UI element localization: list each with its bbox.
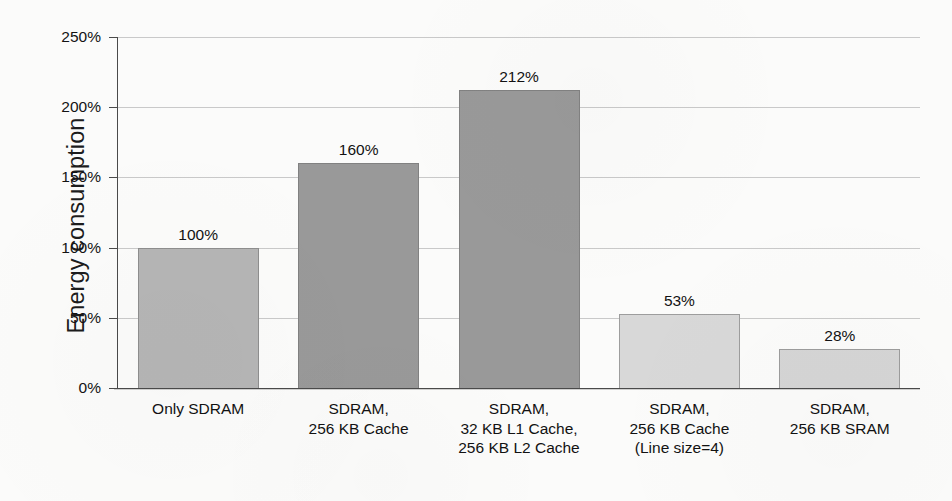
y-axis-tick-label: 200% <box>41 98 101 116</box>
bar-value-label: 100% <box>138 226 259 244</box>
bar-value-label: 212% <box>459 68 580 86</box>
y-axis-line <box>117 37 118 389</box>
y-axis-tick <box>109 248 118 249</box>
y-axis-tick <box>109 177 118 178</box>
bar <box>619 314 740 388</box>
y-axis-tick-label: 150% <box>41 168 101 186</box>
bar <box>298 163 419 388</box>
y-axis-tick-label: 100% <box>41 239 101 257</box>
x-axis-line <box>114 388 920 389</box>
energy-consumption-bar-chart: Energy consumption 0%50%100%150%200%250%… <box>0 0 952 501</box>
bar <box>459 90 580 388</box>
y-axis-tick <box>109 388 118 389</box>
y-axis-tick <box>109 37 118 38</box>
bar-value-label: 53% <box>619 292 740 310</box>
bar <box>779 349 900 388</box>
y-axis-tick <box>109 107 118 108</box>
y-axis-tick-label: 0% <box>41 379 101 397</box>
y-axis-tick-label: 50% <box>41 309 101 327</box>
gridline <box>118 37 920 38</box>
bar-value-label: 160% <box>298 141 419 159</box>
y-axis-tick-label: 250% <box>41 28 101 46</box>
x-axis-category-label: SDRAM, 256 KB SRAM <box>746 399 934 438</box>
bar <box>138 248 259 388</box>
bar-value-label: 28% <box>779 327 900 345</box>
y-axis-tick <box>109 318 118 319</box>
